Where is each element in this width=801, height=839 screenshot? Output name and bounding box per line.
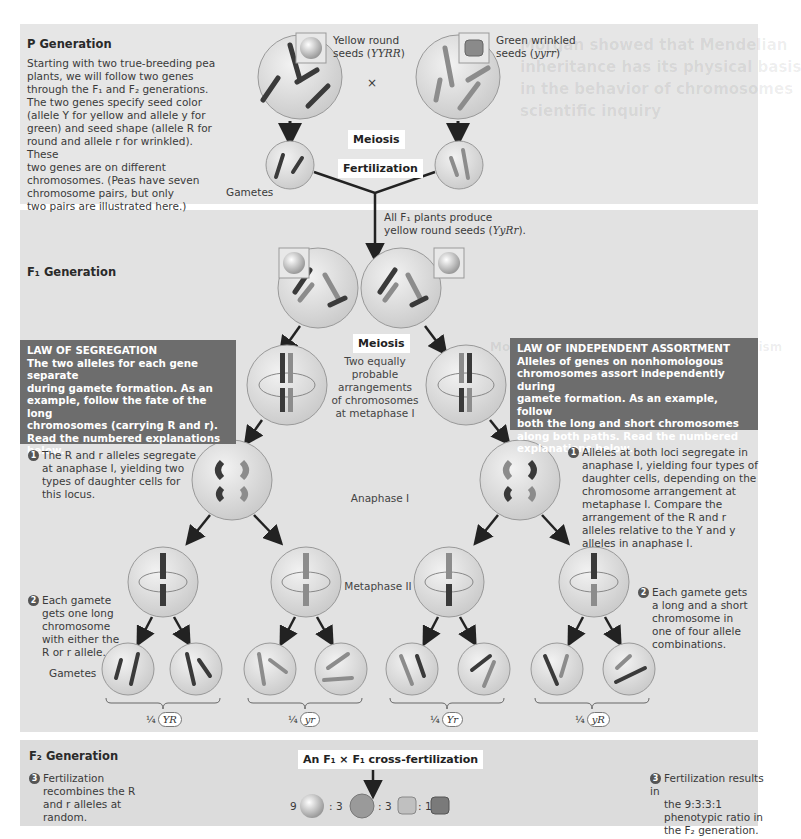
yellow-wrinkled-seed-icon [398,797,416,814]
gamete-braces [106,698,649,709]
step2-segregation-note: 2Each gamete gets one long chromosome wi… [28,594,138,659]
green-wrinkled-seed-icon [431,797,449,814]
step2-assortment-note: 2Each gamete gets a long and a short chr… [638,586,758,651]
metaphase-ii-cell-rY [414,547,484,617]
metaphase-i-label: Two equally probable arrangements of chr… [320,355,430,420]
gamete-fraction-Yr: ¼Yr [430,712,463,727]
gamete-cell-ry [266,141,314,189]
cross-fertilization-label: An F₁ × F₁ cross-fertilization [298,750,483,769]
meiosis-label: Meiosis [348,130,405,149]
yellow-round-seed-icon [300,794,324,818]
anaphase-i-label: Anaphase I [340,492,420,505]
ratio-count-9: 9 [290,800,297,813]
metaphase-ii-cell-ry [271,547,341,617]
ratio-count-3b: : 3 [378,800,392,813]
green-wrinkled-seed-icon [465,40,483,56]
gamete-fraction-YR: ¼YR [146,712,182,727]
all-f1-note: All F₁ plants produce yellow round seeds… [384,211,526,237]
ratio-count-3a: : 3 [329,800,343,813]
yellow-round-seed-icon [300,37,322,59]
parent-right-label: Green wrinkled seeds (yyrr) [496,34,576,60]
f1-cell-right [361,248,441,328]
f1-generation-heading: F₁ Generation [27,265,116,279]
yellow-round-seed-icon [283,252,305,274]
metaphase-ii-cell-RY [128,547,198,617]
parent-left-label: Yellow round seeds (YYRR) [333,34,405,60]
fertilization-label: Fertilization [338,159,423,178]
meiosis-label: Meiosis [353,334,410,353]
metaphase-i-cell-right [426,345,506,425]
metaphase-ii-label: Metaphase II [338,580,418,593]
ratio-count-1: : 1 [418,800,432,813]
step1-segregation-note: 1The R and r alleles segregate at anapha… [28,449,198,501]
step1-assortment-note: 1Alleles at both loci segregate in anaph… [568,446,758,550]
metaphase-ii-cell-Ry [559,547,629,617]
step3-left-note: 3Fertilization recombines the R and r al… [29,772,159,824]
gamete-cell-yr [435,141,483,189]
cross-symbol: × [367,77,377,90]
gametes-label: Gametes [49,667,96,680]
law-of-segregation-box: LAW OF SEGREGATION The two alleles for e… [20,340,236,444]
law-of-independent-assortment-box: LAW OF INDEPENDENT ASSORTMENT Alleles of… [510,338,758,430]
gamete-cells [102,643,655,695]
gametes-label: Gametes [226,186,273,199]
green-round-seed-icon [350,794,374,818]
p-generation-heading: P Generation [27,37,112,51]
step3-right-note: 3Fertilization results in the 9:3:3:1 ph… [650,772,770,837]
f2-generation-heading: F₂ Generation [29,749,118,763]
yellow-round-seed-icon [438,252,460,274]
metaphase-i-cell-left [247,345,327,425]
p-generation-description: Starting with two true-breeding pea plan… [27,57,227,213]
gamete-fraction-yr: ¼yr [288,712,320,727]
gamete-fraction-yR: ¼yR [575,712,610,727]
